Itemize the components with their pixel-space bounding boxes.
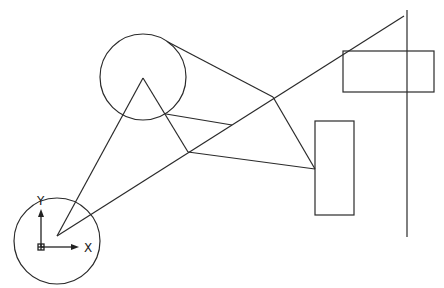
ucs-y-arrow-icon xyxy=(38,209,44,217)
ucs-icon: X Y xyxy=(36,194,92,255)
node-to-rect[interactable] xyxy=(188,152,315,169)
triangle-left-edge[interactable] xyxy=(57,78,143,236)
long-diagonal[interactable] xyxy=(57,16,404,236)
drawing-canvas[interactable]: X Y xyxy=(0,0,444,288)
ucs-x-label: X xyxy=(84,241,92,255)
circle-to-diagonal[interactable] xyxy=(166,114,232,125)
ucs-x-arrow-icon xyxy=(71,244,79,250)
large-circle[interactable] xyxy=(100,34,186,120)
triangle-right-edge[interactable] xyxy=(143,78,188,152)
upper-right-rectangle[interactable] xyxy=(343,51,434,92)
ucs-y-label: Y xyxy=(36,194,45,208)
rectangles-layer xyxy=(315,51,434,215)
lower-rectangle[interactable] xyxy=(315,121,354,215)
apex-to-rect[interactable] xyxy=(273,97,315,169)
